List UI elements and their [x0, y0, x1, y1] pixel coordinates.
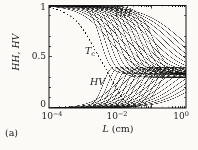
- x-tick-base: 10: [106, 111, 117, 121]
- y-tick-label-0p5: 0.5: [22, 51, 46, 62]
- y-tick-label-0: 0: [22, 99, 46, 110]
- tc-subscript: c: [91, 50, 95, 58]
- y-axis-label: HH, HV: [11, 34, 21, 71]
- x-axis-unit: (cm): [109, 123, 134, 134]
- annotation-tc-curve: Tc: [85, 45, 95, 56]
- x-tick-label-1e-4: 10−4: [37, 110, 67, 123]
- figure-panel-a: HH, HV 1 0.5 0 10−4 10−2 100 L (cm) HH T…: [0, 0, 198, 150]
- x-tick-label-1e0: 100: [166, 110, 196, 123]
- x-tick-base: 10: [173, 111, 184, 121]
- x-tick-base: 10: [41, 111, 52, 121]
- panel-label: (a): [5, 127, 18, 138]
- x-axis-label: L (cm): [88, 123, 148, 134]
- x-tick-exponent: 0: [185, 110, 189, 118]
- x-tick-exponent: −4: [53, 110, 63, 118]
- x-tick-exponent: −2: [118, 110, 128, 118]
- annotation-hv-curves: HV: [90, 76, 105, 87]
- y-tick-label-1: 1: [22, 2, 46, 13]
- annotation-hh-curves: HH: [115, 7, 132, 18]
- x-tick-label-1e-2: 10−2: [102, 110, 132, 123]
